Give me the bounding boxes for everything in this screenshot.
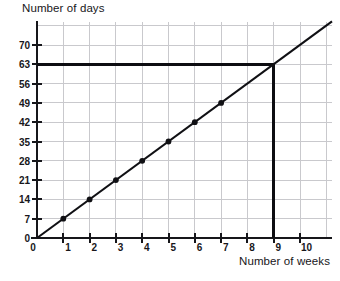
y-tick-label: 49: [19, 98, 31, 109]
x-tick-label: 9: [276, 242, 282, 253]
x-tick-label: 7: [223, 242, 229, 253]
data-point: [87, 197, 93, 203]
y-tick-label: 14: [19, 194, 31, 205]
x-tick-label: 8: [249, 242, 255, 253]
x-tick-label: 3: [118, 242, 124, 253]
y-tick-label: 56: [19, 79, 31, 90]
data-point: [60, 216, 66, 222]
data-point: [192, 119, 198, 125]
x-tick-label: 1: [65, 242, 71, 253]
x-tick-label: 0: [30, 242, 36, 253]
data-point: [139, 158, 145, 164]
x-tick-label: 4: [144, 242, 150, 253]
y-tick-label: 63: [19, 59, 31, 70]
data-point: [166, 139, 172, 145]
x-tick-label: 2: [92, 242, 98, 253]
y-tick-label: 7: [24, 214, 30, 225]
y-tick-label: 28: [19, 156, 31, 167]
data-point: [218, 100, 224, 106]
line-chart: 0 7 14 21 28 35 42 49 56 63 70 0 1 2 3 4…: [0, 0, 340, 281]
x-axis-title: Number of weeks: [239, 255, 330, 267]
x-tick-label: 6: [197, 242, 203, 253]
y-tick-label: 42: [19, 117, 31, 128]
data-point: [113, 177, 119, 183]
y-tick-label: 70: [19, 40, 31, 51]
y-tick-label: 35: [19, 137, 31, 148]
chart-container: 0 7 14 21 28 35 42 49 56 63 70 0 1 2 3 4…: [0, 0, 340, 281]
y-tick-label: 21: [19, 175, 31, 186]
x-tick-label: 10: [301, 242, 313, 253]
x-tick-label: 5: [170, 242, 176, 253]
y-axis-title: Number of days: [22, 2, 105, 14]
